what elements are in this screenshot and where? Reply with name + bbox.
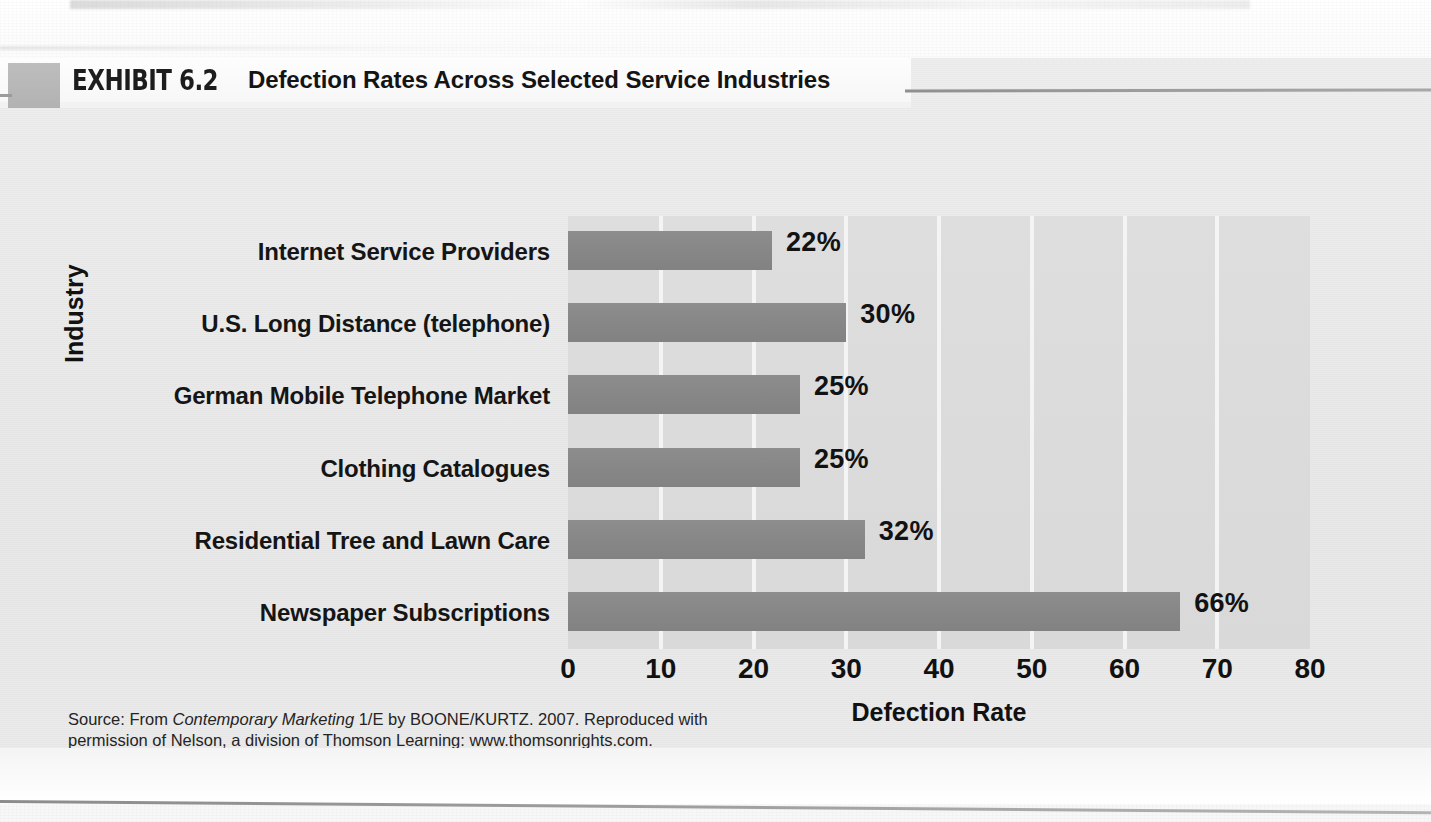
bar-value-label: 66%: [1194, 588, 1249, 619]
category-label-column: Internet Service ProvidersU.S. Long Dist…: [30, 216, 550, 649]
bar-value-label: 30%: [860, 299, 915, 330]
category-label: Newspaper Subscriptions: [30, 599, 550, 627]
source-line-2: permission of Nelson, a division of Thom…: [68, 731, 653, 749]
bar-row: 32%: [568, 505, 1310, 573]
bar-chart: Industry Internet Service ProvidersU.S. …: [0, 108, 1431, 748]
x-tick-label-40: 40: [923, 653, 954, 685]
bar-row: 25%: [568, 433, 1310, 501]
scanned-page: EXHIBIT 6.2 Defection Rates Across Selec…: [0, 0, 1431, 822]
source-line-1-prefix: Source: From: [68, 710, 173, 728]
x-tick-label-30: 30: [831, 653, 862, 685]
bar-value-label: 25%: [814, 444, 869, 475]
x-tick-label-70: 70: [1202, 653, 1233, 685]
bar-row: 66%: [568, 577, 1310, 645]
bar[interactable]: [568, 592, 1180, 631]
category-label: Clothing Catalogues: [30, 455, 550, 483]
exhibit-header-rule: [905, 88, 1431, 92]
x-tick-label-80: 80: [1294, 653, 1325, 685]
bar-value-label: 25%: [814, 371, 869, 402]
category-label: German Mobile Telephone Market: [30, 382, 550, 410]
page-bleed-through-top: [70, 0, 1250, 9]
bar[interactable]: [568, 231, 772, 270]
bar[interactable]: [568, 375, 800, 414]
bar[interactable]: [568, 448, 800, 487]
exhibit-header-rule-left: [0, 94, 12, 97]
plot-area: 22%30%25%25%32%66%: [568, 216, 1310, 649]
bar[interactable]: [568, 303, 846, 342]
bar-row: 30%: [568, 288, 1310, 356]
category-label: Internet Service Providers: [30, 238, 550, 266]
source-book-title: Contemporary Marketing: [173, 710, 355, 728]
bar-value-label: 32%: [879, 516, 934, 547]
exhibit-title: Defection Rates Across Selected Service …: [248, 66, 830, 94]
page-bottom-fade: [0, 748, 1431, 804]
exhibit-panel: EXHIBIT 6.2 Defection Rates Across Selec…: [0, 58, 1431, 748]
x-tick-label-0: 0: [560, 653, 576, 685]
source-line-1-suffix: 1/E by BOONE/KURTZ. 2007. Reproduced wit…: [354, 710, 708, 728]
x-tick-label-10: 10: [645, 653, 676, 685]
category-label: Residential Tree and Lawn Care: [30, 527, 550, 555]
page-bleed-through-top-secondary: [0, 46, 1431, 50]
category-label: U.S. Long Distance (telephone): [30, 310, 550, 338]
bar[interactable]: [568, 520, 865, 559]
x-tick-label-20: 20: [738, 653, 769, 685]
x-axis-tick-labels: 01020304050607080: [568, 653, 1310, 693]
x-tick-label-50: 50: [1016, 653, 1047, 685]
bar-value-label: 22%: [786, 227, 841, 258]
bar-row: 22%: [568, 216, 1310, 284]
bar-row: 25%: [568, 360, 1310, 428]
exhibit-header-square-mark: [8, 63, 60, 108]
x-tick-label-60: 60: [1109, 653, 1140, 685]
exhibit-number-label: EXHIBIT 6.2: [72, 64, 218, 97]
